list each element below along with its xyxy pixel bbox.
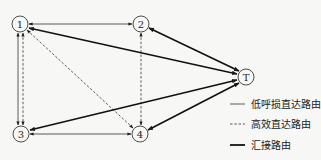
edge-1-4-dashed <box>27 30 133 128</box>
low-loss-direct-routes <box>18 24 132 134</box>
node-3: 3 <box>13 126 29 142</box>
legend-item-low-loss: 低呼损直达路由 <box>230 98 321 110</box>
edge-T-1 <box>29 28 237 74</box>
network-routing-diagram: 1 2 3 4 T 低呼损直达路由 高效直达路由 汇接路由 <box>0 0 321 160</box>
legend-item-tandem: 汇接路由 <box>230 139 291 151</box>
tandem-routes <box>29 28 239 130</box>
node-2-label: 2 <box>138 19 144 30</box>
node-1-label: 1 <box>17 19 23 30</box>
legend: 低呼损直达路由 高效直达路由 汇接路由 <box>230 98 321 151</box>
node-2: 2 <box>133 16 149 32</box>
node-1: 1 <box>12 16 28 32</box>
legend-label-low-loss: 低呼损直达路由 <box>251 98 321 110</box>
legend-item-high-efficiency: 高效直达路由 <box>230 118 311 130</box>
node-T: T <box>238 69 254 85</box>
high-efficiency-direct-routes <box>23 30 141 128</box>
legend-label-high-efficiency: 高效直达路由 <box>251 118 311 130</box>
node-4: 4 <box>132 126 148 142</box>
node-T-label: T <box>243 72 250 83</box>
node-4-label: 4 <box>137 129 143 140</box>
node-3-label: 3 <box>18 129 24 140</box>
legend-label-tandem: 汇接路由 <box>251 139 291 151</box>
edge-T-3 <box>30 80 237 130</box>
